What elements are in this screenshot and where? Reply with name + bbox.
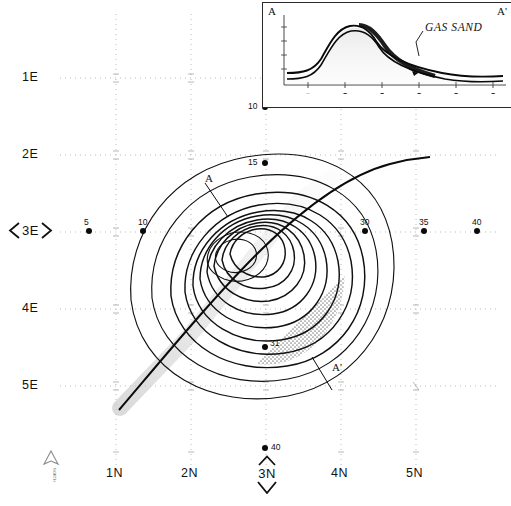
well-dot[interactable] xyxy=(262,445,268,451)
well-label: 40 xyxy=(271,442,280,452)
well-label: 40 xyxy=(472,217,481,227)
well-dot[interactable] xyxy=(140,228,146,234)
well-dot[interactable] xyxy=(362,228,368,234)
axis-label-bottom-2n: 2N xyxy=(181,466,198,480)
well-dot[interactable] xyxy=(262,344,268,350)
svg-text:▬: ▬ xyxy=(380,91,384,95)
cross-section-line xyxy=(119,157,430,410)
axis-label-left-3e-highlight: 3E xyxy=(8,222,53,239)
right-caret-icon xyxy=(40,222,53,239)
well-label: 30 xyxy=(360,217,369,227)
left-caret-icon xyxy=(8,222,21,239)
axis-label-bottom-3n-text: 3N xyxy=(253,466,281,481)
svg-text:▬: ▬ xyxy=(343,91,347,95)
well-dot[interactable] xyxy=(421,228,427,234)
north-arrow-label: NORTH xyxy=(46,468,56,482)
axis-label-bottom-4n: 4N xyxy=(331,466,348,480)
axis-label-left-2e: 2E xyxy=(22,147,38,161)
well-label: 35 xyxy=(419,217,428,227)
well-dot[interactable] xyxy=(474,228,480,234)
section-label-a: A xyxy=(205,172,213,184)
down-caret-icon xyxy=(254,481,280,494)
cross-section-inset: —▬ ▬▬ ▬▬ A A' GAS SAND xyxy=(262,2,511,108)
north-arrow: NORTH xyxy=(40,449,64,495)
up-caret-icon xyxy=(254,455,280,466)
well-label: 10 xyxy=(138,217,147,227)
svg-text:▬: ▬ xyxy=(491,91,495,95)
well-label: 31 xyxy=(270,338,279,348)
well-label: 10 xyxy=(248,101,257,111)
well-dot[interactable] xyxy=(86,228,92,234)
section-label-a-prime: A' xyxy=(332,361,342,373)
well-dot[interactable] xyxy=(262,160,268,166)
svg-text:—: — xyxy=(306,91,310,95)
figure-canvas: 1E 2E 3E 4E 5E 1N 2N 3N 4N 5N 1015510303… xyxy=(0,0,511,506)
well-label: 5 xyxy=(84,217,89,227)
cross-section-plot: —▬ ▬▬ ▬▬ xyxy=(263,3,509,105)
axis-label-left-1e: 1E xyxy=(22,70,38,84)
svg-text:▬: ▬ xyxy=(454,91,458,95)
axis-label-left-3e-text: 3E xyxy=(22,223,39,238)
axis-label-bottom-1n: 1N xyxy=(106,466,123,480)
inset-label-a: A xyxy=(268,5,276,17)
axis-label-bottom-3n-highlight: 3N xyxy=(253,455,281,494)
axis-label-left-4e: 4E xyxy=(22,301,38,315)
axis-label-bottom-5n: 5N xyxy=(406,466,423,480)
well-label: 15 xyxy=(248,157,257,167)
gas-sand-annotation: GAS SAND xyxy=(425,21,483,33)
inset-label-a-prime: A' xyxy=(497,5,507,17)
axis-label-left-5e: 5E xyxy=(22,378,38,392)
svg-text:▬: ▬ xyxy=(417,91,421,95)
